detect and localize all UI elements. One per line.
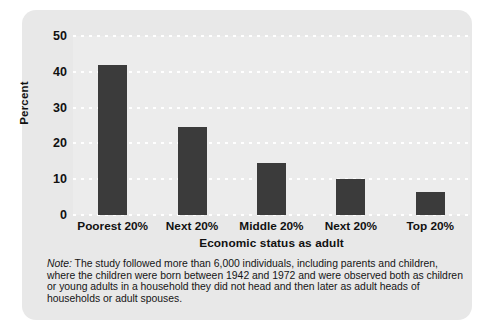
y-tick-label: 40 [41, 66, 67, 79]
y-tick-label: 30 [41, 102, 67, 115]
bar [257, 163, 286, 215]
x-tick-label: Next 20% [152, 219, 231, 233]
bar [416, 192, 445, 215]
note-label: Note: [47, 258, 72, 269]
x-axis-title: Economic status as adult [73, 236, 470, 250]
y-tick-label: 20 [41, 137, 67, 150]
x-axis-tick-labels: Poorest 20%Next 20%Middle 20%Next 20%Top… [73, 219, 470, 237]
bar [98, 65, 127, 215]
x-tick-label: Middle 20% [232, 219, 311, 233]
plot-area [73, 36, 470, 215]
gridline-20 [73, 142, 470, 144]
gridline-30 [73, 107, 470, 109]
gridline-40 [73, 71, 470, 73]
note-text: The study followed more than 6,000 indiv… [47, 258, 463, 304]
bar-chart: Percent 01020304050 Poorest 20%Next 20%M… [0, 0, 493, 255]
figure-note: Note: The study followed more than 6,000… [47, 258, 465, 305]
x-tick-label: Next 20% [311, 219, 390, 233]
y-tick-label: 0 [41, 209, 67, 222]
bar [178, 127, 207, 215]
y-tick-label: 50 [41, 30, 67, 43]
bar [336, 179, 365, 215]
x-tick-label: Poorest 20% [73, 219, 152, 233]
y-axis-title: Percent [18, 63, 30, 143]
y-tick-label: 10 [41, 173, 67, 186]
y-axis-tick-labels: 01020304050 [37, 36, 67, 215]
gridline-50 [73, 35, 470, 37]
x-tick-label: Top 20% [391, 219, 470, 233]
